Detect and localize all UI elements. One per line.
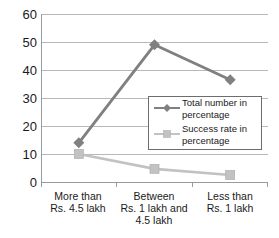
marker-success-rate-in-percentage-1 [150, 164, 159, 173]
legend-label-success-rate: Success rate in percentage [182, 123, 260, 146]
legend: Total number in percentage Success rate … [148, 96, 262, 150]
legend-marker-success-rate [154, 129, 180, 139]
legend-label-success-rate-line1: Success rate in [182, 123, 260, 135]
x-axis-label-less-than-line2: Rs. 1 lakh [180, 202, 279, 214]
marker-success-rate-in-percentage-2 [226, 171, 235, 180]
marker-success-rate-in-percentage-0 [74, 150, 83, 159]
line-chart: 60 50 40 30 20 10 0 Total number in [0, 0, 279, 238]
x-axis-label-less-than-line1: Less than [180, 190, 279, 202]
x-axis-label-less-than: Less than Rs. 1 lakh [180, 190, 279, 214]
legend-entry-total-number: Total number in percentage [149, 98, 263, 124]
marker-total-number-in-percentage-2 [225, 74, 236, 85]
legend-label-total-number: Total number in percentage [182, 97, 260, 120]
legend-label-total-number-line1: Total number in [182, 97, 260, 109]
legend-label-success-rate-line2: percentage [182, 135, 260, 147]
legend-label-total-number-line2: percentage [182, 109, 260, 121]
legend-marker-total-number [154, 103, 180, 113]
legend-entry-success-rate: Success rate in percentage [149, 124, 263, 150]
x-axis-label-between-line3: 4.5 lakh [104, 214, 204, 226]
